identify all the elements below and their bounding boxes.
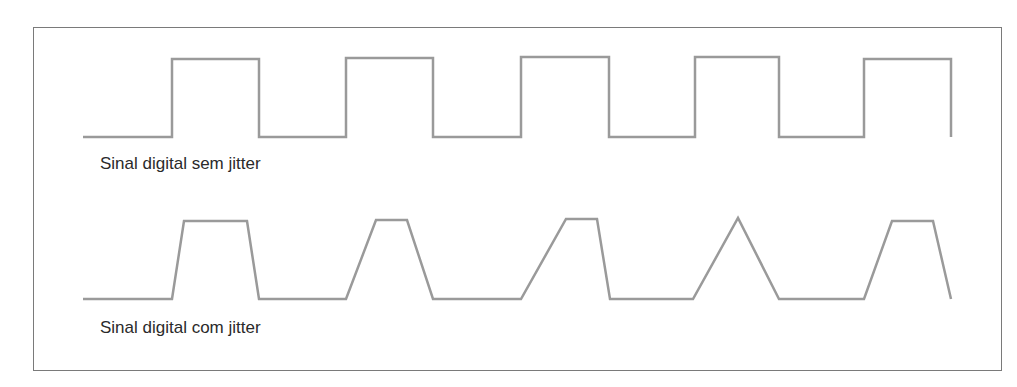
label-signal-with-jitter: Sinal digital com jitter	[100, 318, 261, 338]
square-wave-without-jitter	[83, 57, 951, 137]
label-signal-without-jitter: Sinal digital sem jitter	[100, 154, 261, 174]
square-wave-with-jitter	[83, 218, 951, 299]
